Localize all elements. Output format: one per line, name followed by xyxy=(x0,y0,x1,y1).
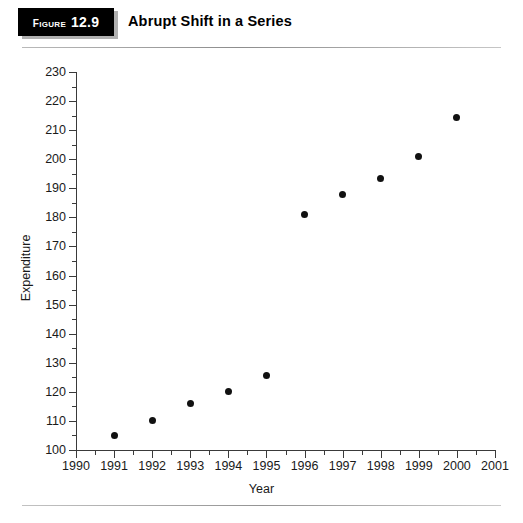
footer-divider xyxy=(22,505,501,506)
y-tick-major xyxy=(69,159,77,160)
y-tick-major xyxy=(69,101,77,102)
data-point xyxy=(301,211,308,218)
y-tick-label: 130 xyxy=(6,356,66,370)
data-point xyxy=(415,153,422,160)
x-tick-major xyxy=(495,450,496,458)
y-tick-label: 170 xyxy=(6,239,66,253)
data-point xyxy=(453,114,460,121)
x-tick-major xyxy=(343,450,344,458)
y-tick-label: 220 xyxy=(6,94,66,108)
y-tick-major xyxy=(69,72,77,73)
y-tick-minor xyxy=(72,261,77,262)
x-tick-major xyxy=(76,450,77,458)
y-tick-minor xyxy=(72,87,77,88)
x-tick-minor xyxy=(95,450,96,455)
y-tick-label: 150 xyxy=(6,298,66,312)
data-point xyxy=(149,417,156,424)
y-tick-minor xyxy=(72,145,77,146)
y-tick-label: 190 xyxy=(6,181,66,195)
y-tick-minor xyxy=(72,290,77,291)
y-tick-label: 200 xyxy=(6,152,66,166)
data-point xyxy=(187,400,194,407)
x-tick-major xyxy=(114,450,115,458)
y-tick-major xyxy=(69,130,77,131)
y-tick-label: 140 xyxy=(6,327,66,341)
y-tick-minor xyxy=(72,319,77,320)
y-tick-major xyxy=(69,363,77,364)
y-tick-minor xyxy=(72,348,77,349)
y-tick-label: 100 xyxy=(6,443,66,457)
data-point xyxy=(111,432,118,439)
y-tick-label: 110 xyxy=(6,414,66,428)
x-tick-minor xyxy=(324,450,325,455)
y-axis-title: Expenditure xyxy=(19,218,33,318)
x-tick-minor xyxy=(286,450,287,455)
y-tick-major xyxy=(69,392,77,393)
x-tick-major xyxy=(381,450,382,458)
x-tick-major xyxy=(266,450,267,458)
data-point xyxy=(225,388,232,395)
y-tick-minor xyxy=(72,377,77,378)
y-tick-major xyxy=(69,305,77,306)
x-tick-minor xyxy=(476,450,477,455)
y-tick-minor xyxy=(72,203,77,204)
y-tick-major xyxy=(69,188,77,189)
x-tick-major xyxy=(419,450,420,458)
data-point xyxy=(339,191,346,198)
x-tick-major xyxy=(190,450,191,458)
x-tick-major xyxy=(457,450,458,458)
y-tick-major xyxy=(69,276,77,277)
x-tick-minor xyxy=(171,450,172,455)
y-tick-label: 180 xyxy=(6,210,66,224)
x-tick-major xyxy=(152,450,153,458)
x-tick-label: 2001 xyxy=(465,459,523,473)
y-tick-minor xyxy=(72,435,77,436)
scatter-plot: 1001101201301401501601701801902002102202… xyxy=(0,0,523,523)
x-axis-title: Year xyxy=(0,482,523,496)
data-point xyxy=(263,372,270,379)
y-tick-label: 160 xyxy=(6,269,66,283)
y-tick-minor xyxy=(72,232,77,233)
x-tick-minor xyxy=(438,450,439,455)
y-tick-major xyxy=(69,334,77,335)
x-tick-minor xyxy=(400,450,401,455)
y-tick-label: 120 xyxy=(6,385,66,399)
y-tick-major xyxy=(69,217,77,218)
x-tick-major xyxy=(228,450,229,458)
x-tick-minor xyxy=(209,450,210,455)
y-tick-label: 230 xyxy=(6,65,66,79)
data-point xyxy=(377,175,384,182)
x-tick-minor xyxy=(133,450,134,455)
y-tick-major xyxy=(69,246,77,247)
y-tick-minor xyxy=(72,174,77,175)
y-tick-label: 210 xyxy=(6,123,66,137)
y-tick-minor xyxy=(72,406,77,407)
x-tick-major xyxy=(305,450,306,458)
x-tick-minor xyxy=(247,450,248,455)
y-tick-major xyxy=(69,421,77,422)
y-tick-minor xyxy=(72,116,77,117)
x-tick-minor xyxy=(362,450,363,455)
